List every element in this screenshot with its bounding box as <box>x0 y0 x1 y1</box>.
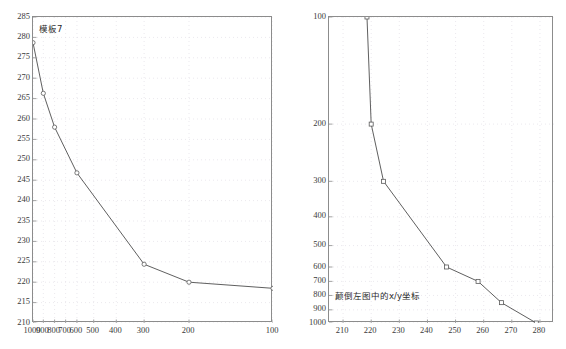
y-tick-label: 1000 <box>296 318 326 327</box>
y-tick-label: 255 <box>2 134 30 143</box>
y-tick-label: 265 <box>2 93 30 102</box>
y-tick-label: 280 <box>2 32 30 41</box>
x-tick-label: 200 <box>172 326 204 335</box>
figure-canvas: 模板7 210215220225230235240245250255260265… <box>0 0 566 349</box>
chart-annotation-right: 颠倒左图中的x/y坐标 <box>335 291 420 301</box>
chart-title-left: 模板7 <box>39 24 62 34</box>
chart-panel-right: 颠倒左图中的x/y坐标 1002003004005006007008009001… <box>283 0 566 349</box>
y-tick-label: 400 <box>296 211 326 220</box>
y-tick-label: 200 <box>296 119 326 128</box>
y-tick-label: 275 <box>2 52 30 61</box>
y-tick-label: 700 <box>296 276 326 285</box>
y-tick-label: 225 <box>2 256 30 265</box>
y-tick-label: 235 <box>2 216 30 225</box>
chart-panel-left: 模板7 210215220225230235240245250255260265… <box>0 0 283 349</box>
plot-svg-right <box>329 17 554 323</box>
y-tick-label: 800 <box>296 290 326 299</box>
plot-area-right <box>328 16 553 322</box>
y-tick-label: 260 <box>2 114 30 123</box>
y-tick-label: 100 <box>296 12 326 21</box>
plot-svg-left <box>33 17 273 323</box>
y-tick-label: 285 <box>2 12 30 21</box>
plot-area-left <box>32 16 272 322</box>
y-tick-label: 245 <box>2 175 30 184</box>
y-tick-label: 240 <box>2 195 30 204</box>
y-tick-label: 600 <box>296 262 326 271</box>
y-tick-label: 250 <box>2 154 30 163</box>
x-tick-label: 300 <box>127 326 159 335</box>
y-tick-label: 900 <box>296 304 326 313</box>
y-tick-label: 300 <box>296 176 326 185</box>
y-tick-label: 270 <box>2 73 30 82</box>
y-tick-label: 500 <box>296 240 326 249</box>
y-tick-label: 220 <box>2 277 30 286</box>
y-tick-label: 230 <box>2 236 30 245</box>
x-tick-label: 280 <box>523 326 555 335</box>
y-tick-label: 215 <box>2 297 30 306</box>
